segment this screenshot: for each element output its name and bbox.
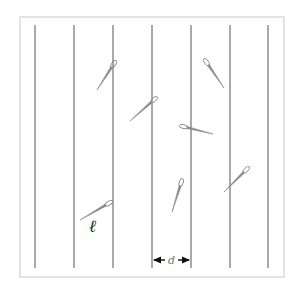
needle-eye (104, 199, 113, 207)
needle (80, 199, 113, 220)
needle-eye (242, 165, 251, 174)
parallel-lines (35, 25, 268, 268)
arrowhead-left (153, 257, 161, 264)
needle-eye (179, 124, 188, 130)
needle-eye (150, 95, 159, 104)
needle-body (97, 66, 113, 90)
needle (224, 165, 251, 192)
arrowhead-right (182, 257, 190, 264)
needle-body (224, 171, 245, 192)
needle-length-label: ℓ (89, 216, 96, 236)
needle (130, 95, 159, 121)
needle (172, 178, 184, 212)
needle-body (172, 185, 181, 212)
needles (80, 57, 251, 220)
needle (97, 59, 118, 90)
line-spacing-label: d (168, 254, 175, 267)
needle-body (130, 101, 152, 121)
needle (202, 57, 224, 88)
needle-eye (178, 178, 184, 187)
buffon-needle-diagram: ℓ d (0, 0, 299, 294)
needle-body (207, 64, 224, 88)
needle-eye (202, 57, 210, 66)
needle-eye (110, 59, 118, 68)
needle (179, 124, 213, 134)
